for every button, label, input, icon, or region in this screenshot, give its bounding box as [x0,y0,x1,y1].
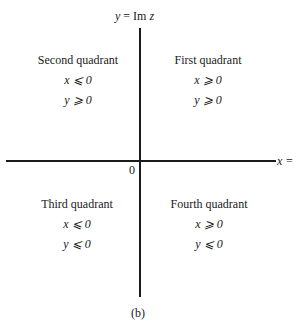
quadrant-title: First quadrant [153,50,263,70]
quadrant-condition-x: x ⩾ 0 [154,214,264,234]
quadrant-third: Third quadrant x ⩽ 0 y ⩽ 0 [22,194,132,254]
quadrant-condition-y: y ⩽ 0 [154,234,264,254]
quadrant-second: Second quadrant x ⩽ 0 y ⩾ 0 [23,50,133,110]
quadrant-condition-y: y ⩾ 0 [23,90,133,110]
figure-caption: (b) [131,306,145,320]
quadrant-condition-x: x ⩾ 0 [153,70,263,90]
x-axis-label: x = [277,154,293,168]
quadrant-fourth: Fourth quadrant x ⩾ 0 y ⩽ 0 [154,194,264,254]
quadrant-condition-y: y ⩽ 0 [22,234,132,254]
quadrant-first: First quadrant x ⩾ 0 y ⩾ 0 [153,50,263,110]
real-axis [6,160,276,162]
quadrant-title: Fourth quadrant [154,194,264,214]
quadrant-title: Second quadrant [23,50,133,70]
quadrant-title: Third quadrant [22,194,132,214]
y-axis-z: z [149,9,154,23]
quadrant-condition-x: x ⩽ 0 [22,214,132,234]
origin-label: 0 [129,163,135,177]
imaginary-axis [139,28,141,297]
quadrant-condition-y: y ⩾ 0 [153,90,263,110]
quadrant-condition-x: x ⩽ 0 [23,70,133,90]
y-axis-eq: = Im [120,9,149,23]
y-axis-label: y = Im z [115,9,154,23]
